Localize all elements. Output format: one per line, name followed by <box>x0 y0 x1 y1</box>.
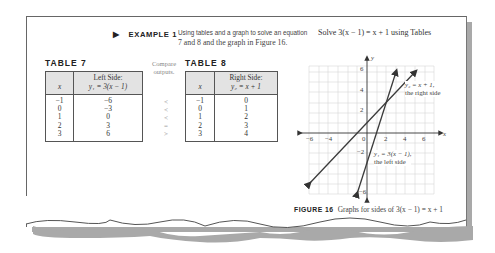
comparison-symbol: > <box>160 130 172 138</box>
triangle-marker-icon: ▶ <box>113 30 120 39</box>
table7: x Left Side:y₁ = 3(x − 1) −1−6 0−3 10 23… <box>45 71 143 142</box>
figure-caption-text: Graphs for sides of 3(x − 1) = x + 1 <box>338 205 443 214</box>
comparison-symbol: < <box>160 98 172 106</box>
example-description-line1: Using tables and a graph to solve an equ… <box>178 28 316 38</box>
y-tick: −2 <box>357 148 364 156</box>
x-axis-label: x <box>443 130 446 138</box>
table7-header-left-side: Left Side:y₁ = 3(x − 1) <box>74 72 143 95</box>
example-description-line2: 7 and 8 and the graph in Figure 16. <box>178 38 338 48</box>
x-tick: −6 <box>306 135 313 143</box>
y-tick: 2 <box>360 106 363 114</box>
y-axis-label: y <box>371 54 374 62</box>
table8-title: TABLE 8 <box>185 58 227 68</box>
comparison-symbol: < <box>160 114 172 122</box>
y-tick: 6 <box>360 65 363 73</box>
x-tick: 0 <box>362 135 365 143</box>
table7-title: TABLE 7 <box>45 58 87 68</box>
table-row: 36 <box>46 130 143 142</box>
x-tick: −4 <box>325 135 332 143</box>
table8-header-x: x <box>186 72 215 95</box>
y-tick: 4 <box>360 86 363 94</box>
comparison-symbol: < <box>160 106 172 114</box>
table8: x Right Side:y₂ = x + 1 −10 01 12 23 34 <box>185 71 278 142</box>
table8-header-right-side: Right Side:y₂ = x + 1 <box>215 72 278 95</box>
x-tick: 2 <box>384 135 387 143</box>
left-side-line-label: y₁ = 3(x − 1), the left side <box>374 150 411 166</box>
comparison-symbol: = <box>160 122 172 130</box>
compare-outputs-note: Compareoutputs. <box>144 60 184 76</box>
table-row: 34 <box>186 130 278 142</box>
y-tick: −6 <box>359 188 366 196</box>
figure16-graph <box>296 54 446 204</box>
figure-caption-label: FIGURE 16 <box>294 206 334 213</box>
x-tick: 6 <box>422 135 425 143</box>
right-side-line-label: y₂ = x + 1, the right side <box>405 81 441 97</box>
example-description: Using tables and a graph to solve an equ… <box>178 28 316 38</box>
example-description-2: 7 and 8 and the graph in Figure 16. <box>178 38 338 48</box>
problem-statement: Solve 3(x − 1) = x + 1 using Tables <box>318 28 431 37</box>
figure-caption: FIGURE 16Graphs for sides of 3(x − 1) = … <box>294 205 443 214</box>
x-tick: 4 <box>403 135 406 143</box>
example-heading: ▶EXAMPLE 1 <box>113 30 177 39</box>
table7-header-x: x <box>46 72 74 95</box>
example-label: EXAMPLE 1 <box>129 30 177 39</box>
